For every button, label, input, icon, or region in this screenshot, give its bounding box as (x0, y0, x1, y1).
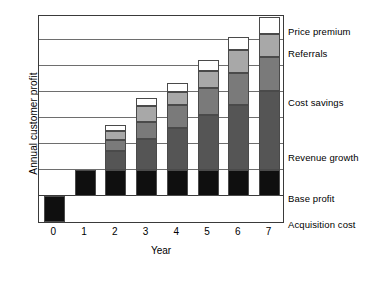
bar-year-1[interactable] (75, 170, 96, 196)
bar-segment-price-premium[interactable] (167, 83, 188, 92)
bar-segment-acquisition-cost[interactable] (44, 196, 65, 222)
bar-segment-cost-savings[interactable] (228, 73, 249, 106)
plot-area (38, 15, 284, 223)
legend-label-revenue-growth: Revenue growth (288, 152, 359, 163)
bar-segment-referrals[interactable] (198, 71, 219, 88)
bar-year-7[interactable] (259, 17, 280, 196)
legend-label-acquisition-cost: Acquisition cost (288, 219, 356, 230)
x-tick-0: 0 (38, 226, 68, 237)
bar-segment-price-premium[interactable] (259, 17, 280, 34)
bar-segment-cost-savings[interactable] (105, 140, 126, 150)
bar-segment-base-profit[interactable] (198, 170, 219, 196)
bar-segment-revenue-growth[interactable] (198, 115, 219, 170)
bar-segment-base-profit[interactable] (167, 170, 188, 196)
bar-year-4[interactable] (167, 83, 188, 196)
bar-segment-referrals[interactable] (259, 34, 280, 57)
bar-segment-base-profit[interactable] (105, 170, 126, 196)
bar-segment-base-profit[interactable] (228, 170, 249, 196)
bar-segment-base-profit[interactable] (136, 170, 157, 196)
bar-segment-price-premium[interactable] (105, 125, 126, 131)
bar-segment-base-profit[interactable] (75, 170, 96, 196)
y-axis-label: Annual customer profit (28, 44, 39, 204)
bar-segment-cost-savings[interactable] (167, 105, 188, 128)
bar-segment-price-premium[interactable] (136, 98, 157, 106)
x-tick-1: 1 (69, 226, 99, 237)
x-tick-2: 2 (100, 226, 130, 237)
bar-year-6[interactable] (228, 37, 249, 196)
bar-segment-cost-savings[interactable] (198, 88, 219, 115)
bar-segment-revenue-growth[interactable] (136, 139, 157, 170)
legend-label-referrals: Referrals (288, 48, 327, 59)
x-tick-3: 3 (131, 226, 161, 237)
x-tick-6: 6 (223, 226, 253, 237)
bar-segment-revenue-growth[interactable] (228, 105, 249, 170)
bar-segment-referrals[interactable] (136, 106, 157, 122)
bar-segment-price-premium[interactable] (228, 37, 249, 50)
bar-segment-revenue-growth[interactable] (105, 151, 126, 171)
bar-segment-revenue-growth[interactable] (167, 128, 188, 170)
x-tick-4: 4 (161, 226, 191, 237)
bar-segment-cost-savings[interactable] (259, 57, 280, 91)
bar-year-5[interactable] (198, 60, 219, 197)
x-axis-label: Year (38, 245, 284, 256)
bar-segment-price-premium[interactable] (198, 60, 219, 72)
bar-segment-base-profit[interactable] (259, 170, 280, 196)
negative-segment-fill (44, 196, 65, 222)
legend-label-price-premium: Price premium (288, 26, 351, 37)
bar-segment-referrals[interactable] (228, 50, 249, 72)
bar-segment-referrals[interactable] (105, 131, 126, 140)
bar-year-3[interactable] (136, 98, 157, 196)
bar-segment-cost-savings[interactable] (136, 122, 157, 139)
legend-label-base-profit: Base profit (288, 193, 335, 204)
x-tick-7: 7 (254, 226, 284, 237)
stacked-bar-chart: Annual customer profit Year 01234567Pric… (0, 0, 375, 283)
bar-segment-revenue-growth[interactable] (259, 91, 280, 170)
x-tick-5: 5 (192, 226, 222, 237)
legend-label-cost-savings: Cost savings (288, 97, 344, 108)
bar-year-2[interactable] (105, 125, 126, 196)
bar-segment-referrals[interactable] (167, 92, 188, 105)
